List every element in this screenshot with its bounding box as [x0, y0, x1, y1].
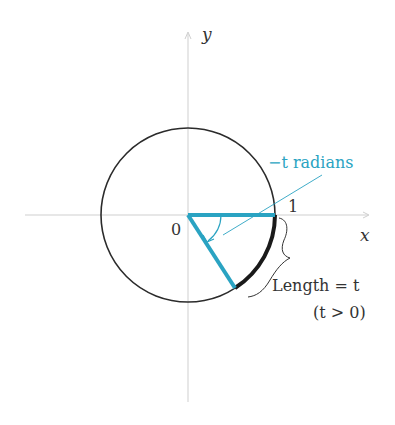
- angle-label: −t radians: [268, 153, 354, 172]
- arc-length-label: Length = t: [272, 276, 360, 295]
- unit-label: 1: [288, 197, 298, 216]
- unit-circle-diagram: y x 0 1 −t radians Length = t (t > 0): [0, 0, 395, 425]
- origin-label: 0: [171, 220, 181, 239]
- radius-terminal: [188, 215, 235, 288]
- angle-arc: [208, 215, 221, 241]
- arc-length-t: [235, 215, 275, 288]
- condition-label: (t > 0): [313, 303, 366, 322]
- x-axis-label: x: [360, 225, 370, 245]
- y-axis-label: y: [201, 24, 212, 44]
